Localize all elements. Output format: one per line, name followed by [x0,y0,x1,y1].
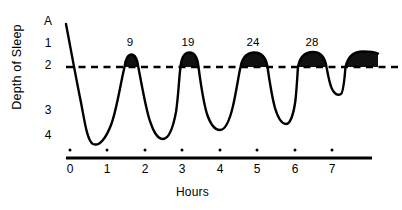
x-tick-dot [69,149,72,152]
y-tick-label-a: A [40,14,56,28]
x-tick-dot [106,149,109,152]
x-tick-dot [181,149,184,152]
y-tick-label-4: 4 [40,128,56,142]
x-tick-label-2: 2 [137,162,153,176]
y-tick-label-2: 2 [40,58,56,72]
x-tick-label-3: 3 [174,162,190,176]
x-tick-dot [294,149,297,152]
x-tick-label-7: 7 [324,162,340,176]
x-axis-title: Hours [176,185,209,199]
x-axis-tick-marks [69,149,334,152]
x-tick-dot [331,149,334,152]
y-tick-label-1: 1 [40,36,56,50]
rem-annotation-4: 28 [299,36,325,48]
x-tick-label-1: 1 [99,162,115,176]
chart-plot-area [0,0,402,210]
x-tick-dot [219,149,222,152]
rem-region-3 [241,53,268,68]
y-axis-title: Depth of Sleep [10,12,24,122]
rem-annotation-3: 24 [240,36,266,48]
x-tick-dot [144,149,147,152]
sleep-depth-curve [66,24,378,145]
rem-region-4 [298,52,327,67]
x-tick-label-6: 6 [287,162,303,176]
x-tick-label-5: 5 [249,162,265,176]
rem-region-5 [346,52,379,68]
y-tick-label-3: 3 [40,103,56,117]
x-tick-label-0: 0 [62,162,78,176]
rem-annotation-2: 19 [175,36,201,48]
sleep-depth-chart: Depth of Sleep A 1 2 3 4 0 1 2 3 4 5 6 7… [0,0,402,210]
rem-annotation-1: 9 [117,36,143,48]
x-tick-label-4: 4 [212,162,228,176]
x-tick-dot [256,149,259,152]
